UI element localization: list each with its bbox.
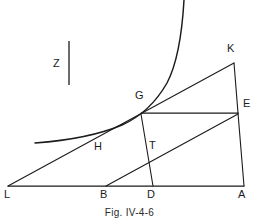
segment-chord-B-E [106,114,238,186]
segment-chord-K-E [234,63,238,113]
vertex-label-A: A [238,189,245,200]
z-axis-label: Z [53,58,60,69]
segment-ray-L-G-K [8,63,234,186]
geometry-diagram [0,0,259,221]
vertex-label-G: G [135,90,144,101]
figure-caption: Fig. IV-4-6 [0,207,259,218]
vertex-label-L: L [4,189,10,200]
vertex-label-E: E [243,98,250,109]
vertex-label-H: H [94,141,102,152]
vertex-label-K: K [227,43,234,54]
vertex-label-D: D [147,189,155,200]
figure-root: L B D A G H T K E Z Fig. IV-4-6 [0,0,259,221]
vertex-label-B: B [100,189,107,200]
exponential-curve [35,0,184,143]
vertex-label-T: T [149,140,156,151]
segment-chord-E-A [238,113,244,186]
